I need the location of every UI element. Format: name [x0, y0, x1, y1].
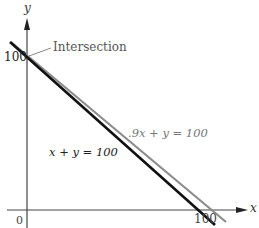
y-tick-100: 100: [4, 51, 27, 63]
y-axis-label: y: [24, 2, 31, 14]
intersection-leader: [29, 48, 51, 56]
intersection-annotation: Intersection: [53, 41, 127, 53]
x-tick-100: 100: [194, 213, 217, 225]
x-axis-label: x: [250, 202, 257, 214]
line2-label: .9x + y = 100: [128, 128, 208, 140]
origin-label: 0: [16, 215, 23, 226]
x-axis-arrow-icon: [236, 207, 248, 213]
chart-canvas: [0, 0, 259, 228]
line1-label: x + y = 100: [49, 147, 118, 159]
y-axis-arrow-icon: [24, 18, 30, 30]
